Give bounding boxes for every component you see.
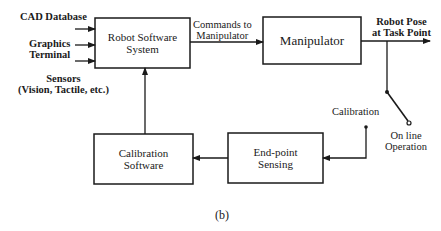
endpoint-sensing-text: End-point Sensing: [228, 133, 323, 183]
commands-label: Commands to Manipulator: [193, 19, 252, 41]
robot-pose-label: Robot Pose at Task Point: [372, 16, 431, 38]
calibration-switch-label: Calibration: [332, 106, 379, 117]
manipulator-text: Manipulator: [263, 17, 361, 64]
calibration-software-text: Calibration Software: [94, 134, 193, 184]
calibration-contact: [364, 125, 368, 129]
calibration-feedback-line: [323, 128, 366, 158]
online-operation-label: On line Operation: [385, 130, 427, 152]
robot-software-text: Robot Software System: [95, 18, 190, 68]
switch-pivot: [385, 90, 389, 94]
graphics-terminal-label: Graphics Terminal: [29, 38, 70, 60]
cad-database-label: CAD Database: [20, 11, 87, 22]
switch-blade: [387, 92, 408, 121]
online-contact: [407, 121, 411, 125]
figure-caption: (b): [215, 210, 229, 221]
sensors-label: Sensors (Vision, Tactile, etc.): [18, 73, 109, 95]
